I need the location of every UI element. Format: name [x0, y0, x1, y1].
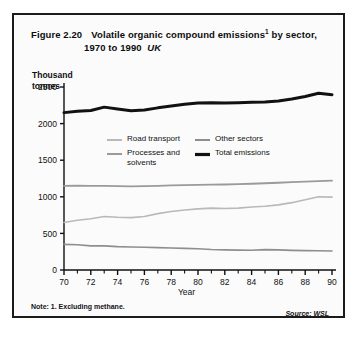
legend-swatch-road-transport	[107, 138, 122, 142]
figure-note: Note: 1. Excluding methane.	[31, 303, 125, 310]
legend-swatch-processes-solvents	[107, 152, 122, 156]
data-series-group	[64, 93, 332, 251]
x-tick-label-group: 7072747678808284868890	[59, 277, 337, 287]
x-axis-title-text: Year	[166, 287, 195, 297]
x-tick-label: 86	[274, 277, 284, 287]
x-axis-title: Year	[14, 287, 345, 297]
legend-swatch-other-sectors	[195, 138, 210, 142]
y-tick-label-group: 05001000150020002500	[38, 82, 57, 275]
legend-swatch-total-emissions	[195, 152, 210, 157]
x-tick-label: 82	[220, 277, 230, 287]
axis-lines	[64, 83, 336, 270]
x-tick-label: 80	[193, 277, 203, 287]
y-tick-label: 1500	[38, 155, 57, 165]
y-tick-label: 500	[43, 229, 57, 239]
series-line	[64, 197, 332, 223]
legend-item-other-sectors: Other sectors	[195, 134, 307, 144]
y-tick-label: 1000	[38, 192, 57, 202]
legend-item-processes-solvents: Processes and solvents	[107, 148, 195, 168]
x-tick-label: 78	[166, 277, 176, 287]
legend-item-road-transport: Road transport	[107, 134, 195, 144]
y-tick-label: 0	[52, 265, 57, 275]
series-line	[64, 93, 332, 112]
legend-label-road-transport: Road transport	[127, 134, 180, 144]
x-tick-label: 90	[327, 277, 337, 287]
axis-tick-marks	[60, 87, 332, 275]
series-line	[64, 181, 332, 187]
series-line	[64, 244, 332, 251]
y-tick-label: 2000	[38, 119, 57, 129]
chart-legend: Road transport Other sectors Processes a…	[107, 134, 307, 168]
x-tick-label: 74	[113, 277, 123, 287]
legend-item-total-emissions: Total emissions	[195, 148, 307, 168]
figure-panel: Figure 2.20Volatile organic compound emi…	[12, 13, 345, 318]
y-tick-label: 2500	[38, 82, 57, 92]
legend-label-processes-solvents: Processes and solvents	[127, 148, 180, 168]
x-tick-label: 88	[300, 277, 310, 287]
x-tick-label: 70	[59, 277, 69, 287]
x-tick-label: 76	[140, 277, 150, 287]
legend-label-total-emissions: Total emissions	[215, 148, 270, 158]
x-tick-label: 84	[247, 277, 257, 287]
figure-source: Source: WSL	[285, 310, 329, 317]
legend-label-other-sectors: Other sectors	[215, 134, 263, 144]
x-tick-label: 72	[86, 277, 96, 287]
